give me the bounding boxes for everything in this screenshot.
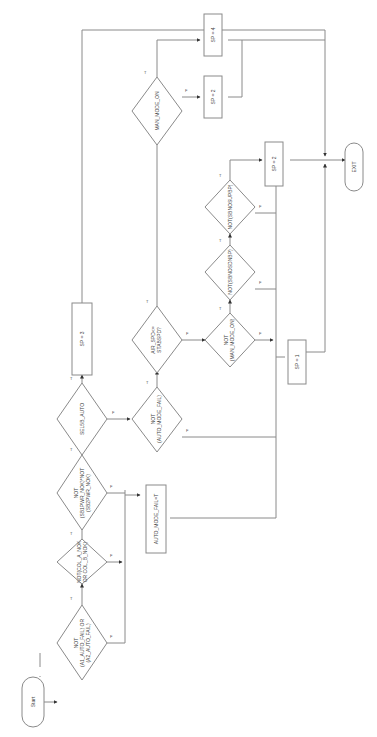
svg-text:T: T bbox=[70, 376, 73, 381]
svg-text:T: T bbox=[219, 173, 222, 178]
svg-text:T: T bbox=[70, 447, 73, 452]
decision-col-nok: NOT(COL_A_NOK OR COL_B_NOK) T F bbox=[57, 531, 113, 584]
d8-line-2: (MAN_MODE_ON) bbox=[229, 318, 235, 361]
svg-text:SP = 1: SP = 1 bbox=[294, 354, 300, 369]
exit-node: EXIT bbox=[345, 143, 363, 191]
svg-text:F: F bbox=[110, 634, 113, 639]
svg-text:T: T bbox=[146, 299, 149, 304]
decision-auto-mode-fail: NOT (AUTO_MODE_FAIL) T F bbox=[132, 380, 189, 452]
process-sp-1: SP = 1 bbox=[288, 340, 306, 384]
process-auto-mode-fail: AUTO_MODE_FAIL=T bbox=[146, 485, 166, 553]
svg-text:F: F bbox=[112, 410, 115, 415]
decision-sel5b-auto: SEL5B_AUTO T F bbox=[57, 376, 115, 455]
svg-text:F: F bbox=[185, 88, 188, 93]
svg-text:F: F bbox=[110, 553, 113, 558]
svg-text:Start: Start bbox=[30, 696, 36, 707]
decision-sbnosupbp: NOT(SBNOSUPBP) T F bbox=[205, 173, 262, 234]
d3-line-3: (SB2PWR_NOK) bbox=[85, 474, 91, 512]
svg-text:EXIT: EXIT bbox=[351, 161, 357, 172]
decision-man-mode-on: MAN_MODE_ON T F bbox=[132, 70, 188, 145]
d10-line-1: NOT(SBNOSUPBP) bbox=[227, 184, 233, 229]
svg-text:T: T bbox=[219, 306, 222, 311]
d6-line-2: STABSPD? bbox=[156, 327, 162, 353]
d4-line-1: SEL5B_AUTO bbox=[79, 403, 85, 435]
decision-sbnosdnbp: NOT(SBNOSDNBP) T F bbox=[205, 238, 262, 300]
d2-line-2: OR COL_B_NOK) bbox=[82, 541, 88, 582]
svg-text:F: F bbox=[110, 484, 113, 489]
decision-air-speed: AIR_SPD<= STABSPD? T F bbox=[132, 299, 189, 373]
svg-text:F: F bbox=[259, 331, 262, 336]
svg-text:T: T bbox=[70, 531, 73, 536]
d7-line-1: MAN_MODE_ON bbox=[154, 91, 160, 131]
svg-text:SP = 3: SP = 3 bbox=[79, 331, 85, 346]
svg-text:T: T bbox=[146, 380, 149, 385]
flowchart: Start NOT (A1_AUTO_FAIL) OR (A2_AUTO_FAI… bbox=[0, 0, 377, 737]
svg-text:F: F bbox=[259, 204, 262, 209]
process-sp-2-manual: SP = 2 bbox=[204, 76, 222, 118]
d9-line-1: NOT(SBNOSDNBP) bbox=[227, 249, 233, 295]
svg-text:T: T bbox=[219, 238, 222, 243]
svg-text:SP = 2: SP = 2 bbox=[271, 156, 277, 171]
decision-auto-fail: NOT (A1_AUTO_FAIL) OR (A2_AUTO_FAIL) T F bbox=[57, 596, 113, 680]
svg-text:AUTO_MODE_FAIL=T: AUTO_MODE_FAIL=T bbox=[153, 494, 159, 545]
svg-text:T: T bbox=[70, 596, 73, 601]
start-node: Start bbox=[22, 677, 44, 727]
d1-line-3: (A2_AUTO_FAIL) bbox=[85, 623, 91, 662]
process-sp-4: SP = 4 bbox=[204, 14, 222, 56]
process-sp-3: SP = 3 bbox=[72, 303, 92, 375]
d5-line-2: (AUTO_MODE_FAIL) bbox=[156, 395, 162, 443]
decision-power-nok: NOT (SB1PWR_NOK)*NOT (SB2PWR_NOK) T F bbox=[57, 447, 113, 530]
decision-not-man-mode-on: NOT (MAN_MODE_ON) T F bbox=[205, 306, 262, 367]
svg-text:F: F bbox=[186, 331, 189, 336]
svg-text:SP = 2: SP = 2 bbox=[210, 89, 216, 104]
svg-text:SP = 4: SP = 4 bbox=[210, 27, 216, 42]
svg-text:F: F bbox=[186, 428, 189, 433]
process-sp-2: SP = 2 bbox=[265, 142, 283, 186]
svg-text:F: F bbox=[259, 280, 262, 285]
svg-text:T: T bbox=[144, 70, 147, 75]
